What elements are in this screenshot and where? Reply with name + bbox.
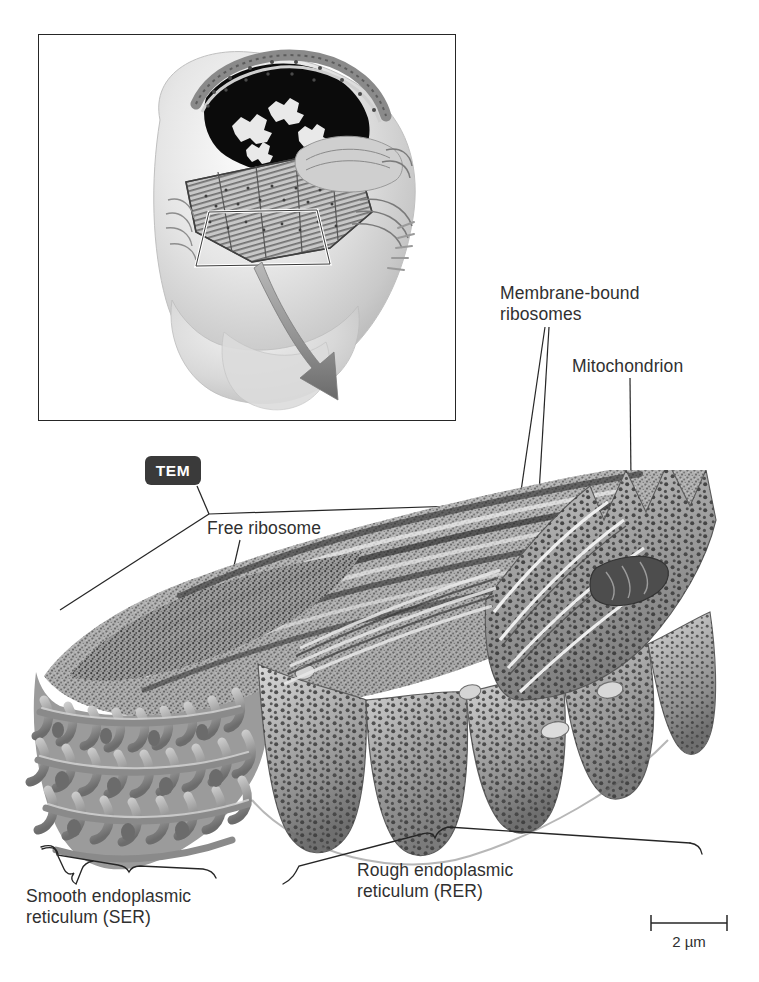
- tem-badge-label: TEM: [156, 462, 191, 480]
- label-mitochondrion: Mitochondrion: [572, 356, 683, 377]
- label-membrane-bound-ribosomes: Membrane-bound ribosomes: [500, 283, 640, 325]
- label-smooth-er: Smooth endoplasmic reticulum (SER): [26, 886, 191, 928]
- scale-bar-label: 2 µm: [650, 933, 728, 950]
- label-rough-er: Rough endoplasmic reticulum (RER): [357, 860, 513, 902]
- tem-leader: [197, 486, 209, 514]
- er-figure: TEM Membrane-bound ribosomes Mitochondri…: [0, 0, 759, 982]
- cell-illustration: [154, 52, 415, 410]
- figure-artwork: [0, 0, 759, 982]
- label-free-ribosome: Free ribosome: [207, 518, 321, 539]
- scale-bar: [651, 915, 727, 931]
- er-micrograph-art: [30, 462, 716, 869]
- tem-badge: TEM: [145, 456, 201, 485]
